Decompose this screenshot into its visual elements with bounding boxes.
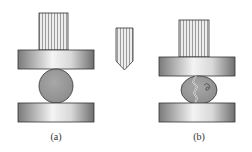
specimen-a [39,69,73,103]
ram-b [179,20,209,57]
panel-a: (a) [18,13,94,143]
specimen-b [181,76,217,104]
compression-diagram: (a) (b) [0,0,252,152]
bottom-plate-a [18,103,94,122]
wedge-tool [116,28,133,70]
bottom-plate-b [159,103,235,122]
top-plate-a [18,50,94,69]
panel-a-label: (a) [50,131,61,143]
wedge-icon [116,28,133,70]
top-plate-b [159,57,235,76]
panel-b-label: (b) [193,131,205,143]
ram-a [39,13,68,50]
panel-b: (b) [159,20,235,143]
